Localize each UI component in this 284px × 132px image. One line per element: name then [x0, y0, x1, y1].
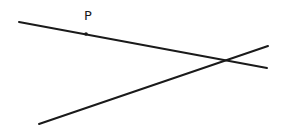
point-p-dot — [84, 32, 88, 36]
intersecting-line — [39, 46, 268, 124]
line-through-p — [19, 22, 267, 68]
geometry-diagram: P — [0, 0, 284, 132]
point-p-label: P — [84, 8, 92, 23]
diagram-svg: P — [0, 0, 284, 132]
